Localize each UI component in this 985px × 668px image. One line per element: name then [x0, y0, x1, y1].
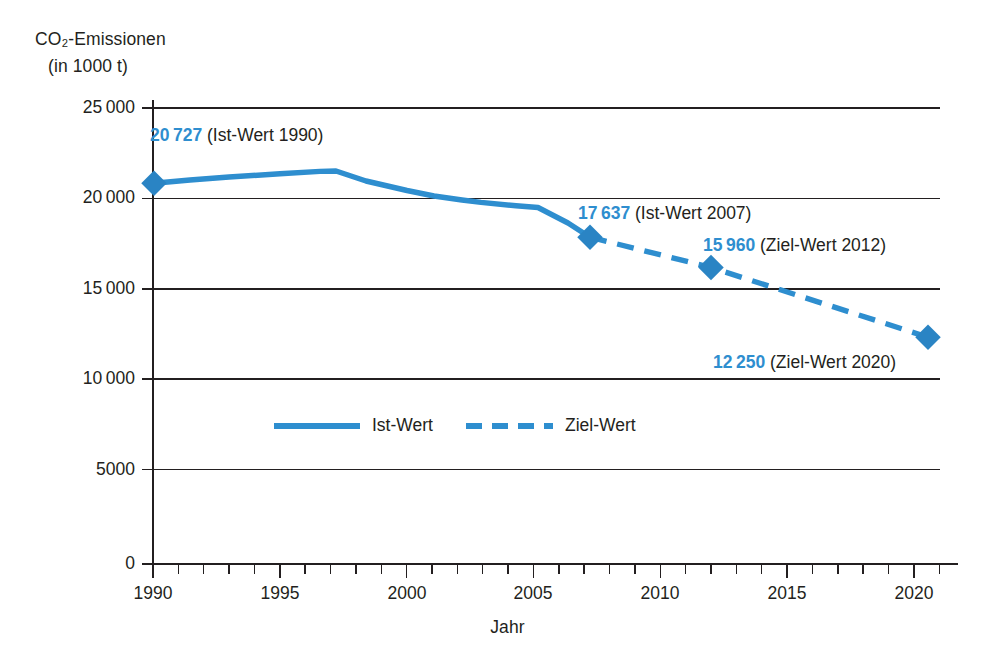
gridlines — [153, 108, 940, 470]
x-tick-label-2010: 2010 — [620, 583, 700, 604]
annotation-2020-text: (Ziel-Wert 2020) — [770, 352, 896, 372]
x-tick-label-1990: 1990 — [113, 583, 193, 604]
annotation-1990-text: (Ist-Wert 1990) — [207, 125, 323, 145]
annotation-2012-text: (Ziel-Wert 2012) — [760, 235, 886, 255]
marker-2012 — [698, 255, 723, 280]
x-axis-title-text: Jahr — [460, 617, 524, 638]
annotation-2007: 17 637 (Ist-Wert 2007) — [578, 203, 751, 224]
chart-plot-svg — [0, 0, 985, 668]
x-axis-ticks — [153, 564, 939, 578]
y-tick-label-20000: 20 000 — [20, 187, 135, 208]
legend-item-ziel-wert-label: Ziel-Wert — [565, 415, 636, 436]
y-tick-label-5000: 5000 — [20, 459, 135, 480]
x-tick-label-1995: 1995 — [240, 583, 320, 604]
x-axis-title: Jahr — [0, 617, 985, 638]
annotation-2020-value: 12 250 — [713, 352, 765, 372]
annotation-2012-value: 15 960 — [703, 235, 755, 255]
y-tick-label-15000: 15 000 — [20, 278, 135, 299]
x-tick-label-2000: 2000 — [367, 583, 447, 604]
data-point-markers — [141, 171, 940, 350]
x-tick-label-2020: 2020 — [874, 583, 954, 604]
annotation-2020: 12 250 (Ziel-Wert 2020) — [713, 352, 896, 373]
annotation-1990: 20 727 (Ist-Wert 1990) — [150, 125, 323, 146]
x-tick-label-2005: 2005 — [493, 583, 573, 604]
y-tick-label-25000: 25 000 — [20, 97, 135, 118]
annotation-2012: 15 960 (Ziel-Wert 2012) — [703, 235, 886, 256]
annotation-2007-text: (Ist-Wert 2007) — [635, 203, 751, 223]
series-line-ist-wert — [154, 171, 590, 237]
y-tick-label-10000: 10 000 — [20, 368, 135, 389]
marker-2020 — [915, 324, 940, 349]
x-tick-label-2015: 2015 — [747, 583, 827, 604]
chart-container: CO₂-Emissionen (in 1000 t) — [0, 0, 985, 668]
marker-1990 — [141, 171, 166, 196]
legend-item-ist-wert-label: Ist-Wert — [372, 415, 433, 436]
annotation-2007-value: 17 637 — [578, 203, 630, 223]
annotation-1990-value: 20 727 — [150, 125, 202, 145]
y-tick-label-0: 0 — [20, 553, 135, 574]
